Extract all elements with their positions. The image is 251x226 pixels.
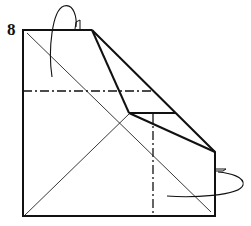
crease-lines [24, 33, 211, 216]
top-fold-behind-arrow-icon [51, 6, 77, 77]
origami-diagram [0, 0, 251, 226]
diagonal-crease-bl-center [24, 113, 130, 216]
flap-bottom-edge [129, 113, 215, 152]
right-fold-behind-arrow-icon [167, 172, 243, 197]
right-arrowhead-icon [216, 169, 226, 171]
diagonal-crease-tl-br [27, 33, 211, 212]
inner-fold-edge [92, 30, 129, 113]
